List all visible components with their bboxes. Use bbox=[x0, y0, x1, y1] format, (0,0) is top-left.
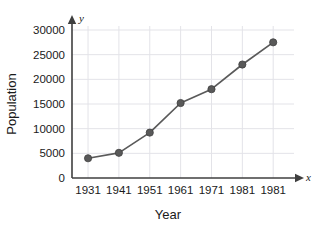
y-tick-label: 5000 bbox=[39, 147, 65, 159]
data-point-marker[interactable] bbox=[270, 39, 277, 46]
x-tick-label: 1941 bbox=[106, 184, 132, 196]
x-tick-label: 1961 bbox=[168, 184, 194, 196]
x-tick-label: 1981 bbox=[260, 184, 286, 196]
x-tick-label: 1951 bbox=[137, 184, 163, 196]
y-axis-arrow bbox=[68, 15, 76, 24]
data-point-marker[interactable] bbox=[208, 86, 215, 93]
y-tick-label: 10000 bbox=[33, 123, 65, 135]
x-axis-title: Year bbox=[155, 207, 182, 222]
data-point-marker[interactable] bbox=[115, 149, 122, 156]
data-point-marker[interactable] bbox=[146, 129, 153, 136]
data-point-marker[interactable] bbox=[239, 61, 246, 68]
x-tick-label: 1981 bbox=[230, 184, 256, 196]
y-tick-label: 20000 bbox=[33, 73, 65, 85]
data-point-marker[interactable] bbox=[84, 155, 91, 162]
y-tick-label: 15000 bbox=[33, 98, 65, 110]
y-tick-label: 25000 bbox=[33, 49, 65, 61]
data-point-marker[interactable] bbox=[177, 99, 184, 106]
x-tick-label: 1931 bbox=[75, 184, 101, 196]
y-axis-letter: y bbox=[78, 12, 84, 24]
chart-canvas: yx05000100001500020000250003000019311941… bbox=[0, 0, 319, 231]
y-tick-label: 0 bbox=[59, 172, 65, 184]
x-tick-label: 1971 bbox=[199, 184, 225, 196]
x-axis-arrow bbox=[295, 174, 304, 182]
x-axis-letter: x bbox=[305, 171, 311, 183]
y-tick-label: 30000 bbox=[33, 24, 65, 36]
population-line-chart: yx05000100001500020000250003000019311941… bbox=[0, 0, 319, 231]
y-axis-title: Population bbox=[4, 73, 19, 134]
